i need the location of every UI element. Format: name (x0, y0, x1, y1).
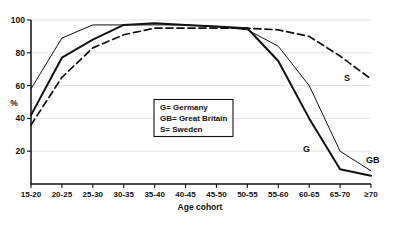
legend-entry-germany: G= Germany (160, 103, 208, 112)
chart-canvas: 20406080100 15-2020-2525-3030-3535-4040-… (0, 0, 393, 227)
series-end-label-s: S (344, 73, 350, 83)
y-tick-label-80: 80 (16, 48, 26, 58)
series-end-label-gb: GB (366, 155, 380, 165)
y-tick-label-60: 60 (16, 81, 26, 91)
x-tick-label-≥70: ≥70 (364, 190, 378, 199)
legend-entry-great-britain: GB= Great Britain (160, 114, 227, 123)
x-tick-label-30-35: 30-35 (113, 190, 134, 199)
age-cohort-employment-chart: 20406080100 15-2020-2525-3030-3535-4040-… (0, 0, 393, 227)
x-tick-label-15-20: 15-20 (21, 190, 42, 199)
x-tick-label-55-60: 55-60 (268, 190, 289, 199)
legend-entry-sweden: S= Sweden (160, 125, 203, 134)
y-tick-label-20: 20 (16, 146, 26, 156)
y-tick-label-100: 100 (11, 15, 25, 25)
y-axis-title: % (10, 98, 18, 108)
series-end-label-g: G (303, 144, 310, 154)
x-tick-label-60-65: 60-65 (299, 190, 320, 199)
x-tick-label-20-25: 20-25 (52, 190, 73, 199)
x-tick-label-65-70: 65-70 (330, 190, 351, 199)
y-tick-label-40: 40 (16, 113, 26, 123)
x-tick-label-50-55: 50-55 (237, 190, 258, 199)
x-tick-label-25-30: 25-30 (83, 190, 104, 199)
x-tick-label-35-40: 35-40 (144, 190, 165, 199)
x-tick-label-40-45: 40-45 (175, 190, 196, 199)
x-axis-title: Age cohort (178, 202, 223, 212)
chart-legend: G= Germany GB= Great Britain S= Sweden (154, 100, 233, 137)
x-tick-label-45-50: 45-50 (206, 190, 227, 199)
